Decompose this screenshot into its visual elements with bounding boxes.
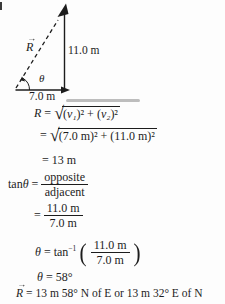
equation-resultant-formula: R = √ (v₁)² + (v₂)² <box>34 106 120 121</box>
tan-theta: tanθ <box>8 178 29 191</box>
equals-sign: = <box>34 209 41 222</box>
square-root: √ (v₁)² + (v₂)² <box>54 106 120 121</box>
fraction-numerator: 11.0 m <box>44 202 83 216</box>
radicand: (7.0 m)² + (11.0 m)² <box>58 128 157 143</box>
equals-sign: = <box>44 107 51 120</box>
vector-arrow-icon: → <box>17 281 26 290</box>
resultant-vector-label: →R <box>26 41 33 53</box>
variable-theta: θ <box>37 271 43 284</box>
fraction-numerator: 11.0 m <box>91 239 130 253</box>
equals-sign: = <box>40 129 47 142</box>
variable-R: R <box>34 107 41 120</box>
fraction-numerator: opposite <box>41 171 88 185</box>
magnitude-value: 13 m <box>52 154 76 167</box>
angle-value: 58° <box>56 271 73 284</box>
equation-tangent-values: = 11.0 m 7.0 m <box>34 202 83 229</box>
fraction: 11.0 m 7.0 m <box>44 202 83 229</box>
resultant-arrowhead-icon <box>58 4 69 18</box>
vertical-component-value: 11.0 m <box>68 45 100 57</box>
equals-sign: = <box>42 154 49 167</box>
equals-sign: = <box>32 178 39 191</box>
fraction-denominator: 7.0 m <box>91 253 130 266</box>
fraction: opposite adjacent <box>41 171 88 198</box>
radicand: (v₁)² + (v₂)² <box>62 106 120 121</box>
equals-sign: = <box>46 271 53 284</box>
open-parenthesis: ( <box>80 240 87 265</box>
horizontal-component-value: 7.0 m <box>29 91 55 103</box>
equals-sign: = <box>44 246 51 259</box>
angle-theta-label: θ <box>39 73 44 84</box>
final-answer-text: 13 m 58° N of E or 13 m 32° E of N <box>36 287 203 300</box>
scanned-textbook-solution-page: →R θ 11.0 m 7.0 m R = √ (v₁)² + (v₂)² = … <box>0 0 225 304</box>
equation-resultant-magnitude: = 13 m <box>42 154 76 167</box>
equation-angle-result: θ = 58° <box>37 271 73 284</box>
final-answer-line: →R = 13 m 58° N of E or 13 m 32° E of N <box>16 287 203 300</box>
fraction-denominator: 7.0 m <box>44 216 83 229</box>
equals-sign: = <box>26 287 33 300</box>
square-root: √ (7.0 m)² + (11.0 m)² <box>50 128 157 143</box>
fraction: 11.0 m 7.0 m <box>91 239 130 266</box>
fraction-denominator: adjacent <box>41 185 88 198</box>
horizontal-arrowhead-icon <box>61 87 70 94</box>
resultant-vector-symbol: →R <box>16 287 23 300</box>
close-parenthesis: ) <box>133 240 140 265</box>
equation-substituted-values: = √ (7.0 m)² + (11.0 m)² <box>40 128 157 143</box>
equation-tangent-definition: tanθ = opposite adjacent <box>8 171 88 198</box>
exponent: −1 <box>68 244 76 253</box>
equation-inverse-tangent: θ = tan−1 ( 11.0 m 7.0 m ) <box>35 239 141 266</box>
variable-theta: θ <box>35 246 41 259</box>
inverse-tan-function: tan−1 <box>54 246 77 259</box>
vector-arrow-icon: → <box>27 35 36 43</box>
